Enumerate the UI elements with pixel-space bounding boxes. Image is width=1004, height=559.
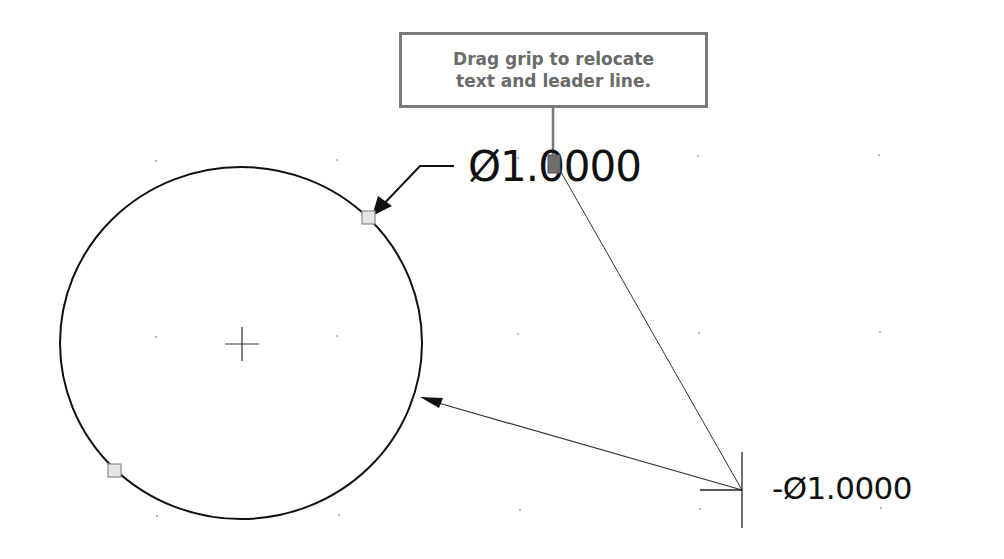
- center-mark: [225, 327, 259, 361]
- bottom-dimension-leader[interactable]: [420, 397, 742, 490]
- arrowhead-icon: [420, 397, 443, 408]
- callout-line-2: text and leader line.: [456, 70, 651, 92]
- top-dimension-leader[interactable]: [372, 166, 454, 216]
- callout-line-1: Drag grip to relocate: [453, 48, 654, 70]
- dimension-text-bottom[interactable]: -Ø1.0000: [772, 473, 912, 504]
- grip-circle-top-right[interactable]: [362, 211, 375, 224]
- instruction-callout: Drag grip to relocate text and leader li…: [399, 32, 708, 108]
- grid-dots: [155, 154, 882, 517]
- text-drag-grip[interactable]: [548, 155, 560, 173]
- relocation-leader-line: [561, 172, 742, 490]
- dimension-junction: [700, 452, 742, 528]
- grip-circle-bottom-left[interactable]: [108, 464, 121, 477]
